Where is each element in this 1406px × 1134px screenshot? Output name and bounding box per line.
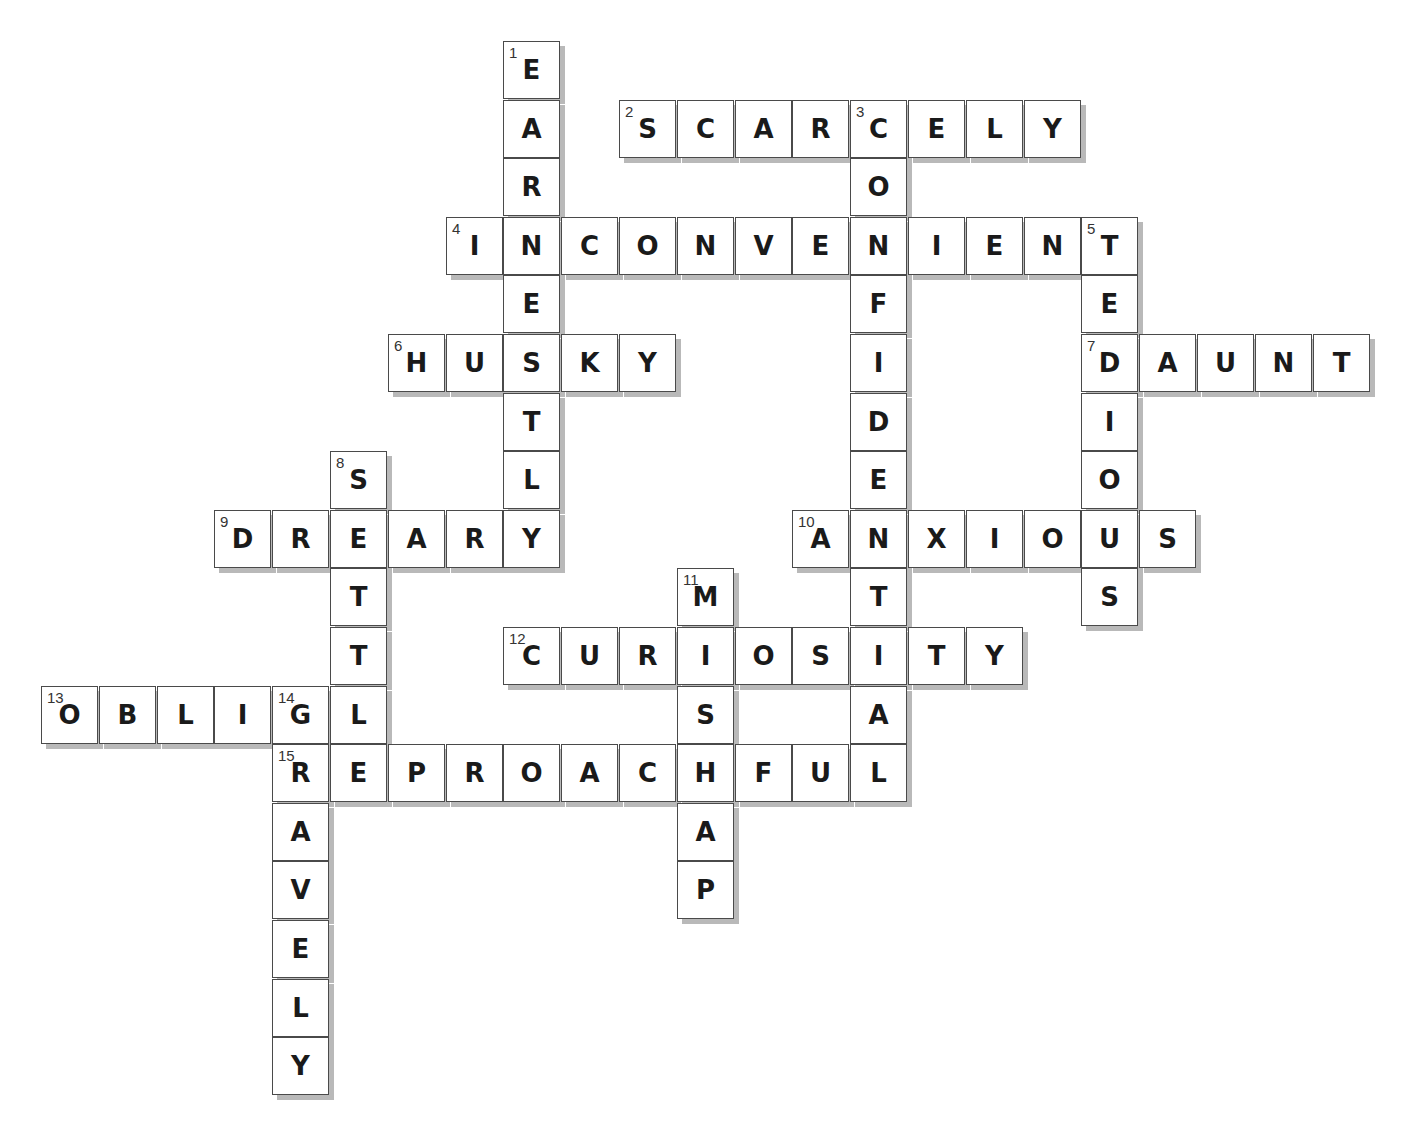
crossword-cell[interactable]: C bbox=[619, 744, 676, 802]
crossword-cell[interactable]: O bbox=[850, 158, 907, 216]
crossword-cell[interactable]: F bbox=[850, 275, 907, 333]
crossword-cell[interactable]: K bbox=[561, 334, 618, 392]
crossword-cell[interactable]: E bbox=[850, 451, 907, 509]
crossword-cell[interactable]: E bbox=[330, 744, 387, 802]
crossword-cell[interactable]: O bbox=[1024, 510, 1081, 568]
crossword-cell[interactable]: 5T bbox=[1081, 217, 1138, 275]
crossword-cell[interactable]: 3C bbox=[850, 100, 907, 158]
clue-number: 9 bbox=[220, 514, 228, 529]
crossword-cell[interactable]: R bbox=[446, 744, 503, 802]
crossword-cell[interactable]: 4I bbox=[446, 217, 503, 275]
crossword-cell[interactable]: 12C bbox=[503, 627, 560, 685]
crossword-cell[interactable]: R bbox=[503, 158, 560, 216]
crossword-cell[interactable]: E bbox=[966, 217, 1023, 275]
crossword-cell[interactable]: E bbox=[272, 920, 329, 978]
crossword-cell[interactable]: T bbox=[330, 568, 387, 626]
crossword-cell[interactable]: 2S bbox=[619, 100, 676, 158]
crossword-cell[interactable]: A bbox=[677, 803, 734, 861]
crossword-cell[interactable]: A bbox=[272, 803, 329, 861]
crossword-cell[interactable]: O bbox=[503, 744, 560, 802]
crossword-cell[interactable]: 10A bbox=[792, 510, 849, 568]
crossword-cell[interactable]: I bbox=[1081, 393, 1138, 451]
crossword-cell[interactable]: H bbox=[677, 744, 734, 802]
crossword-cell[interactable]: 14G bbox=[272, 686, 329, 744]
crossword-cell[interactable]: B bbox=[99, 686, 156, 744]
crossword-cell[interactable]: S bbox=[677, 686, 734, 744]
crossword-cell[interactable]: S bbox=[1139, 510, 1196, 568]
crossword-cell[interactable]: 7D bbox=[1081, 334, 1138, 392]
crossword-cell[interactable]: L bbox=[272, 979, 329, 1037]
crossword-cell[interactable]: I bbox=[677, 627, 734, 685]
crossword-cell[interactable]: A bbox=[561, 744, 618, 802]
crossword-cell[interactable]: 1E bbox=[503, 41, 560, 99]
crossword-cell[interactable]: L bbox=[850, 744, 907, 802]
crossword-cell[interactable]: N bbox=[850, 217, 907, 275]
crossword-cell[interactable]: A bbox=[735, 100, 792, 158]
crossword-cell[interactable]: P bbox=[677, 861, 734, 919]
crossword-cell[interactable]: N bbox=[503, 217, 560, 275]
crossword-cell[interactable]: 9D bbox=[214, 510, 271, 568]
crossword-cell[interactable]: I bbox=[850, 627, 907, 685]
crossword-cell[interactable]: 15R bbox=[272, 744, 329, 802]
crossword-cell[interactable]: U bbox=[792, 744, 849, 802]
crossword-cell[interactable]: U bbox=[561, 627, 618, 685]
crossword-cell[interactable]: T bbox=[330, 627, 387, 685]
crossword-cell[interactable]: 6H bbox=[388, 334, 445, 392]
crossword-cell[interactable]: S bbox=[503, 334, 560, 392]
crossword-cell[interactable]: D bbox=[850, 393, 907, 451]
crossword-cell[interactable]: I bbox=[908, 217, 965, 275]
crossword-cell[interactable]: U bbox=[446, 334, 503, 392]
crossword-cell[interactable]: C bbox=[561, 217, 618, 275]
crossword-cell[interactable]: S bbox=[792, 627, 849, 685]
crossword-cell[interactable]: I bbox=[214, 686, 271, 744]
crossword-cell[interactable]: Y bbox=[619, 334, 676, 392]
crossword-cell[interactable]: T bbox=[503, 393, 560, 451]
crossword-cell[interactable]: Y bbox=[1024, 100, 1081, 158]
crossword-cell[interactable]: I bbox=[966, 510, 1023, 568]
crossword-cell[interactable]: R bbox=[792, 100, 849, 158]
crossword-cell[interactable]: O bbox=[1081, 451, 1138, 509]
crossword-cell[interactable]: L bbox=[966, 100, 1023, 158]
crossword-cell[interactable]: Y bbox=[966, 627, 1023, 685]
crossword-cell[interactable]: R bbox=[619, 627, 676, 685]
cell-letter: N bbox=[695, 233, 717, 259]
crossword-cell[interactable]: L bbox=[503, 451, 560, 509]
crossword-cell[interactable]: T bbox=[1313, 334, 1370, 392]
crossword-cell[interactable]: V bbox=[735, 217, 792, 275]
crossword-cell[interactable]: T bbox=[908, 627, 965, 685]
crossword-cell[interactable]: 11M bbox=[677, 568, 734, 626]
crossword-cell[interactable]: E bbox=[908, 100, 965, 158]
crossword-cell[interactable]: L bbox=[157, 686, 214, 744]
crossword-cell[interactable]: E bbox=[503, 275, 560, 333]
crossword-cell[interactable]: U bbox=[1081, 510, 1138, 568]
crossword-cell[interactable]: V bbox=[272, 861, 329, 919]
crossword-cell[interactable]: O bbox=[735, 627, 792, 685]
crossword-cell[interactable]: N bbox=[1255, 334, 1312, 392]
crossword-cell[interactable]: A bbox=[850, 686, 907, 744]
crossword-cell[interactable]: I bbox=[850, 334, 907, 392]
crossword-cell[interactable]: Y bbox=[503, 510, 560, 568]
crossword-cell[interactable]: N bbox=[1024, 217, 1081, 275]
crossword-cell[interactable]: Y bbox=[272, 1037, 329, 1095]
crossword-cell[interactable]: 8S bbox=[330, 451, 387, 509]
crossword-cell[interactable]: T bbox=[850, 568, 907, 626]
crossword-cell[interactable]: N bbox=[677, 217, 734, 275]
crossword-cell[interactable]: E bbox=[330, 510, 387, 568]
crossword-cell[interactable]: U bbox=[1197, 334, 1254, 392]
crossword-cell[interactable]: C bbox=[677, 100, 734, 158]
crossword-cell[interactable]: A bbox=[388, 510, 445, 568]
crossword-cell[interactable]: A bbox=[503, 100, 560, 158]
crossword-cell[interactable]: X bbox=[908, 510, 965, 568]
crossword-cell[interactable]: A bbox=[1139, 334, 1196, 392]
crossword-cell[interactable]: 13O bbox=[41, 686, 98, 744]
crossword-cell[interactable]: S bbox=[1081, 568, 1138, 626]
crossword-cell[interactable]: N bbox=[850, 510, 907, 568]
crossword-cell[interactable]: R bbox=[446, 510, 503, 568]
crossword-cell[interactable]: O bbox=[619, 217, 676, 275]
crossword-cell[interactable]: F bbox=[735, 744, 792, 802]
crossword-cell[interactable]: P bbox=[388, 744, 445, 802]
crossword-cell[interactable]: E bbox=[792, 217, 849, 275]
crossword-cell[interactable]: E bbox=[1081, 275, 1138, 333]
crossword-cell[interactable]: L bbox=[330, 686, 387, 744]
crossword-cell[interactable]: R bbox=[272, 510, 329, 568]
